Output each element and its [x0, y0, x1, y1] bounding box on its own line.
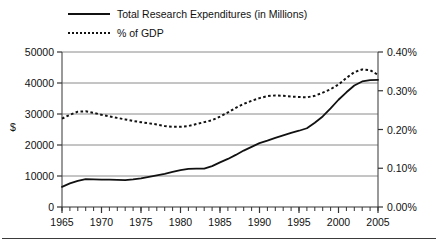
svg-text:1995: 1995	[287, 216, 311, 228]
svg-text:50000: 50000	[25, 46, 54, 58]
svg-text:2005: 2005	[366, 216, 390, 228]
series-line-gdp	[62, 69, 378, 126]
svg-text:1970: 1970	[90, 216, 114, 228]
svg-text:0.40%: 0.40%	[387, 46, 417, 58]
gridlines	[62, 52, 378, 176]
svg-text:0.30%: 0.30%	[387, 85, 417, 97]
svg-text:1985: 1985	[208, 216, 232, 228]
footer-divider	[2, 238, 436, 239]
svg-text:30000: 30000	[25, 108, 54, 120]
svg-text:0.20%: 0.20%	[387, 124, 417, 136]
svg-text:0.00%: 0.00%	[387, 201, 417, 213]
svg-text:1975: 1975	[129, 216, 153, 228]
svg-text:40000: 40000	[25, 77, 54, 89]
chart-figure: Total Research Expenditures (in Millions…	[0, 0, 438, 251]
series-line-expenditures	[62, 80, 378, 187]
svg-text:20000: 20000	[25, 139, 54, 151]
svg-text:0: 0	[48, 201, 54, 213]
data-series-layer	[62, 69, 378, 186]
svg-text:0.10%: 0.10%	[387, 162, 417, 174]
y-axis-right-ticks: 0.00%0.10%0.20%0.30%0.40%	[378, 46, 417, 213]
axis-frame	[62, 52, 378, 207]
svg-text:1965: 1965	[50, 216, 74, 228]
chart-plot-area: 196519701975198019851990199520002005 010…	[0, 0, 438, 251]
svg-text:1980: 1980	[169, 216, 193, 228]
x-axis-ticks: 196519701975198019851990199520002005	[50, 207, 390, 228]
svg-text:2000: 2000	[327, 216, 351, 228]
y-axis-left-ticks: 01000020000300004000050000	[25, 46, 62, 213]
svg-text:1990: 1990	[248, 216, 272, 228]
svg-text:10000: 10000	[25, 170, 54, 182]
